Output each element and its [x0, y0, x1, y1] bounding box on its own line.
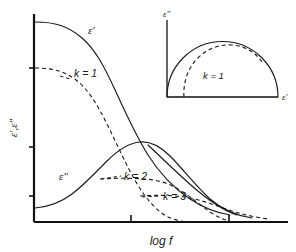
main-plot-curves [35, 22, 268, 222]
label-k3: k = 3 [163, 190, 186, 202]
main-y-axis-label: ε′,ε″ [7, 118, 19, 137]
dielectric-relaxation-figure: ε′ ε″ k = 1 k = 2 k = 3 log f ε′,ε″ ε″ ε… [0, 0, 296, 252]
curve-eps-real [35, 22, 230, 215]
main-plot-axes [29, 14, 288, 222]
inset-plot: ε″ ε′ k = 1 [163, 9, 289, 102]
inset-y-axis-label: ε″ [163, 9, 171, 19]
main-x-axis-label: log f [150, 234, 174, 248]
label-eps-imag: ε″ [59, 170, 68, 182]
label-eps-real: ε′ [88, 24, 95, 36]
leader-k3 [142, 196, 160, 197]
label-k2: k = 2 [124, 170, 147, 182]
inset-label-k1: k = 1 [203, 70, 224, 81]
inset-x-axis-label: ε′ [282, 92, 289, 102]
figure-canvas: ε′ ε″ k = 1 k = 2 k = 3 log f ε′,ε″ ε″ ε… [0, 0, 296, 252]
label-k1: k = 1 [74, 67, 97, 79]
leader-k2 [101, 176, 121, 179]
leader-k1 [60, 76, 70, 79]
